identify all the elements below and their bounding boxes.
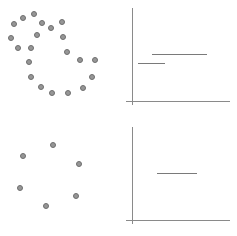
scatter-point: [17, 185, 23, 191]
scatter-point: [48, 25, 54, 31]
scatter-point: [64, 49, 70, 55]
scatter-point: [49, 90, 55, 96]
scatter-point: [89, 74, 95, 80]
x-axis-line: [126, 220, 230, 221]
step-segment: [152, 54, 207, 55]
scatter-point: [77, 57, 83, 63]
scatter-point: [59, 19, 65, 25]
step-segment: [157, 173, 197, 174]
scatter-point: [20, 15, 26, 21]
scatter-panel-bottom-left: [0, 118, 118, 236]
scatter-point: [38, 84, 44, 90]
scatter-point: [39, 20, 45, 26]
scatter-point: [11, 21, 17, 27]
scatter-point: [26, 59, 32, 65]
scatter-point: [28, 74, 34, 80]
scatter-point: [60, 34, 66, 40]
y-axis-line: [132, 127, 133, 224]
scatter-point: [43, 203, 49, 209]
y-axis-line: [132, 8, 133, 105]
scatter-point: [34, 32, 40, 38]
scatter-point: [50, 142, 56, 148]
axes-panel-bottom-right: [118, 118, 237, 236]
step-segment: [138, 63, 165, 64]
x-axis-line: [126, 101, 230, 102]
scatter-point: [31, 11, 37, 17]
scatter-point: [8, 35, 14, 41]
scatter-panel-top-left: [0, 0, 118, 118]
figure-canvas: [0, 0, 237, 236]
scatter-point: [76, 161, 82, 167]
scatter-point: [80, 85, 86, 91]
scatter-point: [20, 153, 26, 159]
scatter-point: [73, 193, 79, 199]
scatter-point: [15, 45, 21, 51]
scatter-point: [92, 57, 98, 63]
scatter-point: [28, 45, 34, 51]
scatter-point: [65, 90, 71, 96]
